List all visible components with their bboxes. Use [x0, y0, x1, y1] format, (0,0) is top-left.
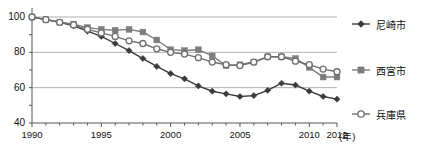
data-point-marker — [140, 41, 146, 47]
x-axis-tick-label: 1995 — [86, 129, 116, 140]
data-point-marker — [320, 66, 326, 72]
data-point-marker — [292, 58, 298, 64]
data-point-marker — [112, 40, 118, 46]
data-point-marker — [279, 54, 285, 60]
data-point-marker — [168, 70, 174, 76]
data-point-marker — [223, 91, 229, 97]
data-point-marker — [71, 22, 77, 28]
x-axis-unit-label: (年) — [339, 129, 369, 143]
data-point-marker — [292, 82, 298, 88]
data-point-marker — [126, 38, 132, 44]
data-point-marker — [223, 62, 229, 68]
data-point-marker — [251, 93, 257, 99]
data-point-marker — [265, 54, 271, 60]
data-point-marker — [306, 62, 312, 68]
data-point-marker — [98, 30, 104, 36]
data-point-marker — [181, 76, 187, 82]
y-axis-tick-label: 60 — [1, 82, 25, 93]
data-point-marker — [237, 63, 243, 69]
data-point-marker — [306, 88, 312, 94]
legend-label-1: 西宮市 — [376, 63, 406, 78]
data-point-marker — [209, 53, 215, 59]
data-point-marker — [265, 87, 271, 93]
data-point-marker — [57, 19, 63, 25]
data-point-marker — [140, 55, 146, 61]
data-point-marker — [334, 69, 340, 75]
y-axis-tick-label: 40 — [1, 117, 25, 128]
data-point-marker — [251, 59, 257, 65]
data-point-marker — [126, 47, 132, 53]
data-point-marker — [168, 49, 174, 55]
data-point-marker — [112, 33, 118, 39]
data-point-marker — [154, 37, 160, 43]
data-point-marker — [154, 46, 160, 52]
y-axis-tick-label: 100 — [1, 11, 25, 22]
y-axis-tick-label: 80 — [1, 46, 25, 57]
x-axis-tick-label: 1990 — [17, 129, 47, 140]
data-point-marker — [195, 83, 201, 89]
data-point-marker — [209, 59, 215, 65]
x-axis-tick-label: 2010 — [294, 129, 324, 140]
data-point-marker — [43, 17, 49, 23]
data-point-marker — [154, 63, 160, 69]
legend-markers — [352, 21, 370, 118]
data-point-marker — [195, 55, 201, 61]
chart-canvas — [0, 0, 421, 149]
data-point-marker — [334, 96, 340, 102]
axis-ticks — [29, 17, 337, 127]
x-axis-tick-label: 2000 — [156, 129, 186, 140]
legend-label-2: 兵庫県 — [376, 107, 406, 122]
x-axis-tick-label: 2005 — [225, 129, 255, 140]
legend-marker-1 — [358, 67, 364, 73]
data-point-marker — [29, 14, 35, 20]
data-point-marker — [209, 88, 215, 94]
data-point-marker — [84, 26, 90, 32]
line-chart: 406080100 199019952000200520102012(年) 尼崎… — [0, 0, 421, 149]
data-point-marker — [278, 80, 284, 86]
data-point-marker — [320, 93, 326, 99]
legend-label-0: 尼崎市 — [376, 17, 406, 32]
data-point-marker — [237, 93, 243, 99]
legend-marker-2 — [358, 111, 364, 117]
legend-marker-0 — [358, 21, 365, 28]
data-point-marker — [182, 51, 188, 57]
data-series-layer — [29, 14, 340, 102]
data-point-marker — [126, 26, 132, 32]
data-point-marker — [320, 74, 326, 80]
data-point-marker — [195, 47, 201, 53]
data-point-marker — [112, 27, 118, 33]
data-point-marker — [140, 29, 146, 35]
